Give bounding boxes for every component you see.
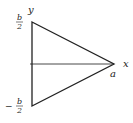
top-fraction-numerator: b — [17, 13, 22, 22]
apex-label: a — [110, 68, 116, 79]
top-fraction-denominator: 2 — [16, 22, 22, 31]
triangle-diagram: y x a b 2 − b 2 — [0, 0, 133, 123]
bottom-fraction-label: − b 2 — [5, 97, 23, 115]
bottom-fraction-denominator: 2 — [16, 106, 22, 115]
x-axis-label: x — [123, 58, 129, 69]
bottom-fraction-sign: − — [5, 101, 13, 111]
bottom-fraction-numerator: b — [17, 97, 22, 106]
top-fraction-label: b 2 — [16, 13, 23, 31]
y-axis-label: y — [27, 4, 34, 15]
